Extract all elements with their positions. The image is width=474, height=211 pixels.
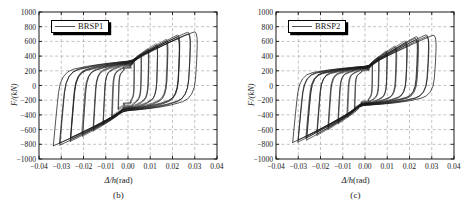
legend-brsp2: BRSP2 (288, 20, 346, 33)
x-axis-label-brsp1: Δ/h(rad) (0, 175, 237, 185)
y-tick-label: −200 (240, 96, 273, 105)
x-tick-label: −0.02 (312, 162, 330, 171)
y-tick-label: 200 (3, 66, 36, 75)
legend-line-icon (292, 26, 312, 27)
x-tick-label: 0.02 (403, 162, 416, 171)
x-tick-label: 0.03 (188, 162, 201, 171)
y-tick-label: 400 (240, 52, 273, 61)
y-tick-label: −400 (3, 110, 36, 119)
x-tick-label: 0.02 (166, 162, 179, 171)
y-tick-label: 400 (3, 52, 36, 61)
y-tick-label: 600 (240, 37, 273, 46)
x-axis-label-unit: (rad) (353, 175, 370, 185)
legend-brsp1: BRSP1 (51, 20, 109, 33)
x-tick-label: −0.01 (97, 162, 115, 171)
y-tick-label: 200 (240, 66, 273, 75)
x-axis-label-brsp2: Δ/h(rad) (237, 175, 474, 185)
x-tick-label: −0.02 (75, 162, 93, 171)
y-tick-label: 800 (240, 22, 273, 31)
x-axis-label-symbol: Δ/h (104, 175, 116, 185)
x-tick-label: 0.04 (210, 162, 223, 171)
y-tick-label: −800 (240, 140, 273, 149)
y-tick-label: 600 (3, 37, 36, 46)
chart-panel-brsp2: F/(kN) Δ/h(rad) BRSP2 (c) −0.04−0.03−0.0… (237, 0, 474, 211)
y-tick-label: −800 (3, 140, 36, 149)
y-tick-label: −400 (240, 110, 273, 119)
y-tick-label: 1000 (240, 8, 273, 17)
x-tick-label: −0.03 (52, 162, 70, 171)
legend-label-brsp2: BRSP2 (315, 22, 340, 31)
y-tick-label: −600 (240, 125, 273, 134)
x-tick-label: 0.01 (144, 162, 157, 171)
y-tick-label: 800 (3, 22, 36, 31)
y-tick-label: −200 (3, 96, 36, 105)
x-tick-label: −0.01 (334, 162, 352, 171)
panel-caption-b: (b) (0, 190, 237, 200)
chart-panel-brsp1: F/(kN) Δ/h(rad) BRSP1 (b) −0.04−0.03−0.0… (0, 0, 237, 211)
y-tick-label: 0 (3, 81, 36, 90)
x-axis-label-symbol: Δ/h (341, 175, 353, 185)
x-tick-label: 0.03 (425, 162, 438, 171)
legend-line-icon (55, 26, 75, 27)
x-tick-label: 0.00 (358, 162, 371, 171)
y-tick-label: −1000 (240, 155, 273, 164)
y-tick-label: −1000 (3, 155, 36, 164)
y-tick-label: 0 (240, 81, 273, 90)
y-tick-label: 1000 (3, 8, 36, 17)
x-tick-label: −0.03 (289, 162, 307, 171)
x-tick-label: 0.04 (447, 162, 460, 171)
panel-caption-c: (c) (237, 190, 474, 200)
x-tick-label: 0.01 (381, 162, 394, 171)
x-axis-label-unit: (rad) (116, 175, 133, 185)
x-tick-label: 0.00 (121, 162, 134, 171)
y-tick-label: −600 (3, 125, 36, 134)
legend-label-brsp1: BRSP1 (78, 22, 103, 31)
figure-container: F/(kN) Δ/h(rad) BRSP1 (b) −0.04−0.03−0.0… (0, 0, 474, 211)
